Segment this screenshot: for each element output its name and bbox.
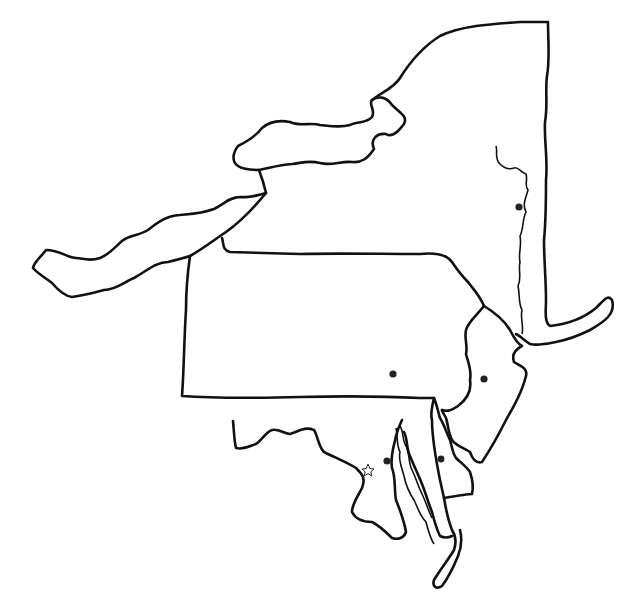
national-capital-star-icon (362, 464, 374, 476)
lake-ontario-outline (234, 97, 406, 170)
chesapeake-bay (396, 426, 434, 544)
capital-maryland-dot (383, 457, 390, 464)
hudson-river (496, 146, 528, 334)
capital-new-jersey-dot (480, 375, 487, 382)
outline-map (0, 0, 644, 608)
capital-new-york-dot (515, 203, 522, 210)
new-york-border (222, 22, 613, 345)
capital-pennsylvania-dot (389, 370, 396, 377)
capital-delaware-dot (438, 456, 445, 463)
new-jersey-border (442, 306, 526, 462)
lake-erie-outline (33, 193, 266, 297)
maryland-border (233, 420, 461, 588)
delaware-border (431, 398, 473, 498)
pennsylvania-border (182, 256, 484, 411)
